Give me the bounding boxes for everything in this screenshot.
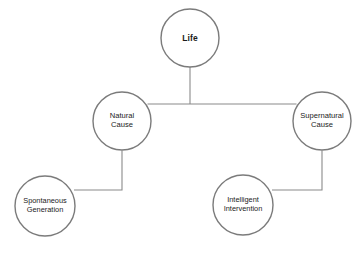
diagram-canvas: Life Natural Cause Supernatural Cause Sp… [0,0,364,255]
node-circle-intelligent-intervention[interactable] [213,175,273,235]
node-circle-group [15,9,351,236]
diagram-graphics [0,0,364,255]
node-circle-supernatural-cause[interactable] [293,92,351,150]
connector-natural-to-spontaneous [74,151,122,191]
node-circle-natural-cause[interactable] [93,92,151,150]
connector-supernatural-to-intelligent [272,151,322,191]
node-circle-life[interactable] [161,9,219,67]
node-circle-spontaneous-generation[interactable] [15,176,75,236]
